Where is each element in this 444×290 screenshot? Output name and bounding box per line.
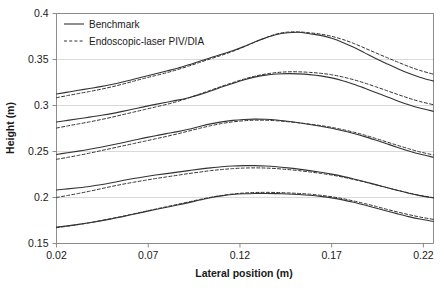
figure-container: 0.020.070.120.170.22 0.150.20.250.30.350… (0, 0, 444, 290)
y-tick-label: 0.4 (34, 7, 49, 19)
y-tick-label: 0.35 (28, 53, 49, 65)
caption-strip (0, 281, 444, 290)
legend-label: Benchmark (89, 19, 141, 30)
y-axis-title: Height (m) (4, 102, 16, 154)
x-tick-label: 0.07 (138, 249, 159, 261)
chart-background (0, 0, 444, 290)
x-tick-label: 0.22 (413, 249, 434, 261)
y-tick-label: 0.25 (28, 145, 49, 157)
x-axis-title: Lateral position (m) (195, 267, 292, 279)
y-tick-label: 0.3 (34, 99, 49, 111)
y-tick-label: 0.15 (28, 237, 49, 249)
y-tick-label: 0.2 (34, 191, 49, 203)
x-tick-label: 0.12 (230, 249, 251, 261)
x-tick-label: 0.02 (46, 249, 67, 261)
x-tick-label: 0.17 (321, 249, 342, 261)
legend-label: Endoscopic-laser PIV/DIA (89, 36, 204, 47)
height-vs-lateral-position-chart: 0.020.070.120.170.22 0.150.20.250.30.350… (0, 0, 444, 290)
